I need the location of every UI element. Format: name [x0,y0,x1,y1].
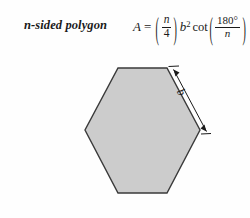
formula-angle-fraction: 180° n [215,15,240,39]
formula-equals: = [141,19,154,35]
page-title: n-sided polygon [24,18,107,33]
formula-coefficient-denominator: 4 [162,28,172,40]
dimension-tick-top [169,66,180,67]
area-formula: A = ( n 4 ) b2 cot ( 180° n ) [133,10,247,44]
formula-open-paren-2: ( [209,11,212,43]
formula-coefficient-numerator: n [162,14,172,26]
arrowhead-up-icon [174,70,180,77]
formula-coefficient-fraction: n 4 [162,14,172,39]
formula-function-name: cot [190,20,207,35]
hexagon-diagram-svg [0,48,250,218]
hexagon-figure: b [0,48,250,218]
formula-area-symbol: A [133,19,141,35]
figure-panel: n-sided polygon A = ( n 4 ) b2 cot ( 180… [0,0,250,218]
arrowhead-down-icon [201,125,207,132]
formula-open-paren-1: ( [156,11,159,43]
formula-close-paren-2: ) [242,11,245,43]
formula-angle-numerator: 180° [215,15,240,26]
dimension-tick-bottom [201,134,211,135]
formula-close-paren-1: ) [174,11,177,43]
formula-base-variable: b [179,19,187,35]
formula-angle-denominator: n [223,28,233,39]
